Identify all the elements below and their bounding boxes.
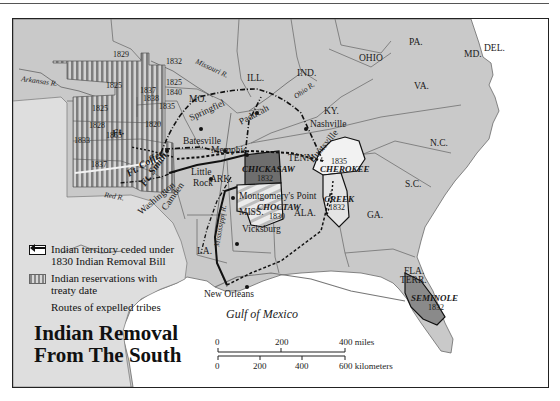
legend-label: Routes of expelled tribes xyxy=(51,301,161,313)
svg-text:Montgomery's Point: Montgomery's Point xyxy=(239,191,317,201)
scale-km-600: 600 kilometers xyxy=(339,361,393,371)
scale-miles-0: 0 xyxy=(215,337,220,347)
svg-text:Rock: Rock xyxy=(193,178,213,188)
map-frame: ILL. IND. OHIO PA. MD. DEL. VA. KY. N.C.… xyxy=(12,18,549,388)
scale-km-400: 400 xyxy=(295,361,309,371)
svg-text:DEL.: DEL. xyxy=(484,43,505,53)
svg-text:1832: 1832 xyxy=(329,203,345,212)
svg-text:1825: 1825 xyxy=(92,104,108,113)
svg-text:LA.: LA. xyxy=(197,246,212,256)
svg-text:1828: 1828 xyxy=(89,121,105,130)
svg-text:CHICKASAW: CHICKASAW xyxy=(242,164,296,174)
scale-miles-400: 400 miles xyxy=(339,337,374,347)
svg-text:MO.: MO. xyxy=(189,94,207,104)
svg-text:1832: 1832 xyxy=(428,303,444,312)
svg-text:1840: 1840 xyxy=(166,88,182,97)
svg-text:S.C.: S.C. xyxy=(405,179,421,189)
scale-km-0: 0 xyxy=(215,361,220,371)
arrow-left-icon xyxy=(29,303,46,313)
svg-text:1855: 1855 xyxy=(106,131,122,140)
svg-text:KY.: KY. xyxy=(324,106,339,116)
title-line-2: From The South xyxy=(34,344,181,366)
svg-text:1820: 1820 xyxy=(145,120,161,129)
svg-text:OHIO: OHIO xyxy=(359,53,383,63)
reservation-stripes-swatch xyxy=(29,274,46,284)
legend-label: treaty date xyxy=(51,284,157,296)
svg-text:IND.: IND. xyxy=(297,68,316,78)
svg-text:ARK.: ARK. xyxy=(210,174,232,184)
svg-text:ILL.: ILL. xyxy=(247,73,264,83)
svg-text:N.C.: N.C. xyxy=(430,138,448,148)
svg-text:1838: 1838 xyxy=(143,94,159,103)
svg-text:PA.: PA. xyxy=(409,37,423,47)
svg-text:Little: Little xyxy=(191,167,212,177)
legend-item-ceded: Indian territory ceded under 1830 Indian… xyxy=(29,243,174,267)
gulf-label: Gulf of Mexico xyxy=(226,307,298,322)
svg-text:CHOCTAW: CHOCTAW xyxy=(257,202,302,212)
svg-text:MD.: MD. xyxy=(464,49,482,59)
svg-text:New Orleans: New Orleans xyxy=(204,289,254,299)
svg-text:1833: 1833 xyxy=(74,136,90,145)
svg-text:1832: 1832 xyxy=(257,174,273,183)
title-line-1: Indian Removal xyxy=(34,322,181,344)
scale-bar: 0 200 400 miles 0 200 400 600 kilometers xyxy=(215,337,415,377)
svg-text:1837: 1837 xyxy=(91,160,107,169)
map-title: Indian Removal From The South xyxy=(34,322,181,366)
svg-text:1830: 1830 xyxy=(269,212,285,221)
svg-text:Memphis: Memphis xyxy=(211,145,247,155)
scale-km-200: 200 xyxy=(253,361,267,371)
svg-text:Vicksburg: Vicksburg xyxy=(242,224,281,234)
legend-label: 1830 Indian Removal Bill xyxy=(51,255,174,267)
svg-text:GA.: GA. xyxy=(367,210,383,220)
legend-label: Indian reservations with xyxy=(51,272,157,284)
svg-text:1825: 1825 xyxy=(166,78,182,87)
svg-text:VA.: VA. xyxy=(414,81,429,91)
legend-item-routes: Routes of expelled tribes xyxy=(29,301,174,313)
map-legend: Indian territory ceded under 1830 Indian… xyxy=(29,243,174,318)
svg-text:TERR.: TERR. xyxy=(400,275,427,285)
svg-text:1835: 1835 xyxy=(331,157,347,166)
legend-item-reservations: Indian reservations with treaty date xyxy=(29,272,174,296)
page-top-rule xyxy=(0,3,549,4)
svg-text:1825: 1825 xyxy=(106,81,122,90)
svg-text:SEMINOLE: SEMINOLE xyxy=(411,293,458,303)
svg-text:1835: 1835 xyxy=(159,102,175,111)
scale-miles-200: 200 xyxy=(275,337,289,347)
svg-text:1829: 1829 xyxy=(113,50,129,59)
svg-text:Nashville: Nashville xyxy=(310,119,346,129)
legend-label: Indian territory ceded under xyxy=(51,243,174,255)
svg-text:1832: 1832 xyxy=(166,57,182,66)
